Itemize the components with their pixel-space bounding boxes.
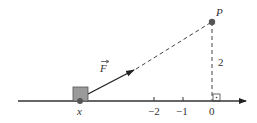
point-p bbox=[209, 19, 215, 25]
direction-dashed-line bbox=[136, 23, 210, 69]
height-label: 2 bbox=[218, 56, 224, 68]
tick-label-minus-1: −1 bbox=[176, 105, 188, 117]
position-dot bbox=[77, 98, 83, 104]
tick-label-0: 0 bbox=[209, 105, 215, 117]
block-position-label: x bbox=[76, 105, 82, 117]
force-label-group: F bbox=[99, 60, 109, 74]
right-angle-dot bbox=[216, 97, 218, 99]
point-p-label: P bbox=[215, 6, 223, 18]
tick-label-minus-2: −2 bbox=[148, 105, 160, 117]
force-label: F bbox=[99, 62, 107, 74]
force-vector-arrow bbox=[88, 70, 134, 94]
force-diagram: P F x 2 −2 −1 0 bbox=[0, 0, 257, 123]
